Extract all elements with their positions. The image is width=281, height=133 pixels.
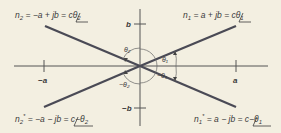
- equation-n1-conjugate: n1* = a − jb = c−θ1: [194, 113, 271, 126]
- svg-text:n1 = a + jb = cθ1: n1 = a + jb = cθ1: [183, 10, 244, 21]
- svg-text:n2 = −a + jb = cθ2: n2 = −a + jb = cθ2: [15, 10, 81, 21]
- equation-n1: n1 = a + jb = cθ1: [183, 10, 251, 22]
- phasor-diagram: −a a b −b θ₂ θ₁ −θ₁ −θ₂ n2 = −a + jb = c…: [0, 0, 281, 133]
- svg-text:n2* = −a − jb = c−θ2: n2* = −a − jb = c−θ2: [15, 113, 89, 125]
- vector-n1: [140, 26, 236, 66]
- angle-neg-theta1: −θ₁: [157, 72, 168, 79]
- equation-n2-conjugate: n2* = −a − jb = c−θ2: [15, 113, 93, 126]
- diagram-svg: −a a b −b θ₂ θ₁ −θ₁ −θ₂ n2 = −a + jb = c…: [0, 0, 281, 133]
- equation-n2: n2 = −a + jb = cθ2: [15, 10, 88, 22]
- svg-text:n1* = a − jb = c−θ1: n1* = a − jb = c−θ1: [194, 113, 262, 125]
- angle-theta2: θ₂: [124, 46, 131, 53]
- vector-n1-conjugate: [140, 66, 236, 107]
- angle-theta1: θ₁: [162, 56, 169, 63]
- angle-neg-theta2: −θ₂: [119, 81, 130, 88]
- label-neg-a: −a: [38, 76, 48, 85]
- label-b: b: [126, 20, 131, 29]
- label-a: a: [233, 76, 238, 85]
- label-neg-b: −b: [122, 104, 132, 113]
